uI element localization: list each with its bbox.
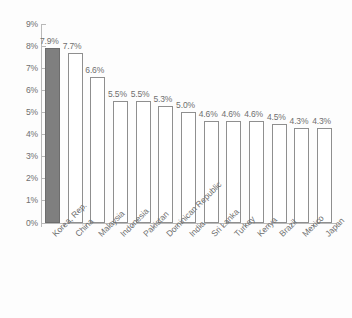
- y-axis-line: [41, 24, 42, 223]
- y-tick: 4%: [8, 130, 38, 139]
- y-tick-label: 7%: [12, 64, 38, 73]
- bar: [317, 128, 332, 223]
- y-tick-label: 6%: [12, 86, 38, 95]
- bar: [204, 121, 219, 223]
- y-tick-label: 8%: [12, 42, 38, 51]
- bar-value-label: 5.0%: [173, 101, 199, 110]
- y-tick-label: 4%: [12, 130, 38, 139]
- x-tick-mark: [41, 224, 42, 227]
- y-tick-label: 5%: [12, 108, 38, 117]
- y-tick: 7%: [8, 64, 38, 73]
- y-tick: 1%: [8, 196, 38, 205]
- y-tick: 8%: [8, 42, 38, 51]
- y-tick-mark: [42, 24, 46, 25]
- y-tick-label: 3%: [12, 152, 38, 161]
- bar: [249, 121, 264, 223]
- bar: [68, 53, 83, 223]
- bar: [90, 77, 105, 223]
- bar: [158, 106, 173, 223]
- y-tick: 5%: [8, 108, 38, 117]
- bar: [272, 124, 287, 224]
- y-tick: 0%: [8, 219, 38, 228]
- y-tick: 2%: [8, 174, 38, 183]
- bar-chart: 9%8%7%6%5%4%3%2%1%0% 7.9%7.7%6.6%5.5%5.5…: [0, 0, 352, 318]
- y-tick-label: 9%: [12, 20, 38, 29]
- y-tick-label: 2%: [12, 174, 38, 183]
- y-tick: 9%: [8, 20, 38, 29]
- y-tick-label: 1%: [12, 196, 38, 205]
- bar-value-label: 4.3%: [309, 117, 335, 126]
- bar: [45, 48, 60, 223]
- bar: [113, 101, 128, 223]
- bar: [294, 128, 309, 223]
- bar-value-label: 6.6%: [82, 66, 108, 75]
- y-tick: 6%: [8, 86, 38, 95]
- bar-value-label: 7.7%: [59, 42, 85, 51]
- y-tick: 3%: [8, 152, 38, 161]
- y-tick-label: 0%: [12, 219, 38, 228]
